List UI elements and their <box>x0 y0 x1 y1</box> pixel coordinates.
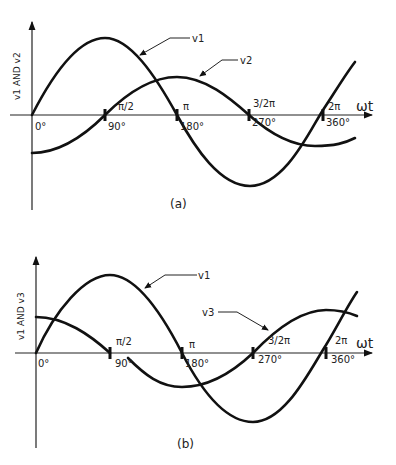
radian-tick-b-0: π/2 <box>116 336 132 347</box>
v3-label-b: v3 <box>202 307 214 318</box>
degree-tick-a-1: 90° <box>108 121 126 132</box>
degree-tick-b-1: 90° <box>115 358 133 369</box>
degree-tick-a-4: 360° <box>326 117 350 128</box>
radian-tick-a-2: 3/2π <box>253 98 275 109</box>
v1-leader-a <box>140 38 190 55</box>
radian-tick-a-3: 2π <box>328 101 340 112</box>
y-axis-label-a: v1 AND v2 <box>12 52 22 100</box>
degree-tick-b-3: 270° <box>258 354 282 365</box>
x-axis-label-a: ωt <box>356 98 374 114</box>
degree-tick-b-0: 0° <box>38 358 49 369</box>
radian-tick-b-2: 3/2π <box>268 335 290 346</box>
v3-leader-b <box>218 312 268 330</box>
v1-curve-a <box>32 38 355 186</box>
caption-b: (b) <box>177 437 194 451</box>
y-axis-label-b: v1 AND v3 <box>16 292 26 340</box>
radian-tick-b-1: π <box>189 339 195 350</box>
v1-curve-b <box>36 275 357 422</box>
x-axis-label-b: ωt <box>356 335 374 351</box>
radian-tick-b-3: 2π <box>335 335 347 346</box>
degree-tick-b-4: 360° <box>331 354 355 365</box>
v2-label-a: v2 <box>240 55 252 66</box>
degree-tick-b-2: 180° <box>185 358 209 369</box>
radian-tick-a-0: π/2 <box>118 101 134 112</box>
diagram-b: v1 v3 v1 AND v3 ωt π/2 π 3/2π 2π 0° 90° … <box>15 257 374 451</box>
v1-leader-b <box>145 275 197 288</box>
radian-tick-a-1: π <box>183 101 189 112</box>
phase-diagrams: v1 v2 v1 AND v2 ωt π/2 π 3/2π 2π 0° 90° … <box>0 0 396 465</box>
v1-label-a: v1 <box>192 33 204 44</box>
degree-tick-a-3: 270° <box>252 117 276 128</box>
diagram-a: v1 v2 v1 AND v2 ωt π/2 π 3/2π 2π 0° 90° … <box>10 22 374 211</box>
caption-a: (a) <box>170 197 187 211</box>
v2-leader-a <box>200 60 238 76</box>
degree-tick-a-0: 0° <box>35 121 46 132</box>
v1-label-b: v1 <box>198 270 210 281</box>
degree-tick-a-2: 180° <box>180 121 204 132</box>
